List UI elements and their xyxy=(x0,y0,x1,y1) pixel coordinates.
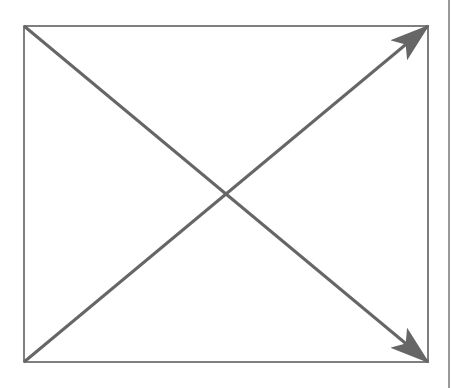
diagram-canvas xyxy=(0,0,452,388)
